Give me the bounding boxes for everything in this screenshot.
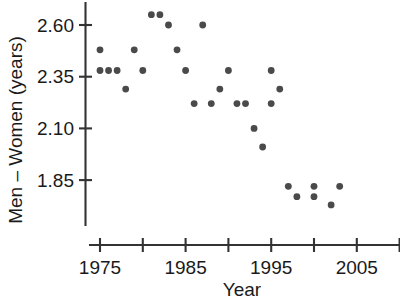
data-point: [157, 11, 164, 18]
data-point: [97, 67, 104, 74]
data-point: [208, 100, 215, 107]
scatter-plot-figure: 2.602.352.101.85 1975198519952005 Men – …: [0, 0, 400, 302]
data-point: [268, 100, 275, 107]
data-point: [328, 202, 335, 209]
data-point: [139, 67, 146, 74]
data-point: [311, 183, 318, 190]
data-point: [148, 11, 155, 18]
x-tick-label: 1995: [250, 257, 292, 278]
y-tick-label: 2.35: [37, 66, 74, 87]
data-point: [105, 67, 112, 74]
data-point: [311, 193, 318, 200]
data-point: [336, 183, 343, 190]
data-point: [276, 86, 283, 93]
y-axis-title: Men – Women (years): [5, 36, 26, 224]
data-point: [251, 125, 258, 132]
data-point: [174, 46, 181, 53]
y-tick-label: 2.10: [37, 118, 74, 139]
y-tick-label: 1.85: [37, 170, 74, 191]
y-axis: [79, 2, 92, 226]
data-point: [165, 22, 172, 29]
data-point: [114, 67, 121, 74]
data-point: [285, 183, 292, 190]
data-point: [293, 193, 300, 200]
data-point: [268, 67, 275, 74]
x-axis-title: Year: [223, 279, 262, 300]
data-point-series: [97, 11, 343, 208]
data-point: [131, 46, 138, 53]
x-tick-label: 1985: [164, 257, 206, 278]
x-tick-label: 1975: [79, 257, 121, 278]
x-tick-label: 2005: [336, 257, 378, 278]
chart-canvas: 2.602.352.101.85 1975198519952005 Men – …: [0, 0, 400, 302]
data-point: [97, 46, 104, 53]
x-tick-labels: 1975198519952005: [79, 257, 378, 278]
data-point: [216, 86, 223, 93]
y-tick-label: 2.60: [37, 15, 74, 36]
data-point: [234, 100, 241, 107]
data-point: [182, 67, 189, 74]
data-point: [191, 100, 198, 107]
data-point: [259, 144, 266, 151]
y-tick-labels: 2.602.352.101.85: [37, 15, 74, 191]
x-axis: [89, 238, 400, 252]
data-point: [242, 100, 249, 107]
data-point: [225, 67, 232, 74]
data-point: [199, 22, 206, 29]
data-point: [122, 86, 129, 93]
